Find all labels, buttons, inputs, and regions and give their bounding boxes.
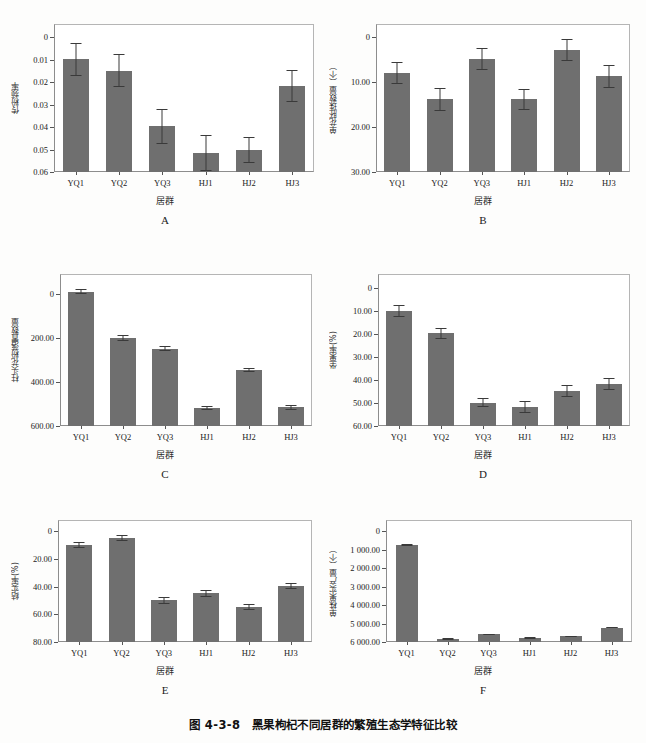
bar bbox=[469, 59, 495, 172]
y-axis-tick-label: 600.00 bbox=[31, 421, 54, 431]
x-axis-tick-mark bbox=[291, 426, 292, 429]
error-bar-stem bbox=[481, 48, 482, 70]
x-axis-tick-mark bbox=[164, 642, 165, 645]
x-axis-tick-mark bbox=[448, 642, 449, 645]
x-axis-tick-mark bbox=[399, 426, 400, 429]
y-axis-tick-mark bbox=[54, 642, 58, 643]
x-axis-tick-mark bbox=[609, 426, 610, 429]
x-axis-tick-mark bbox=[407, 642, 408, 645]
y-axis-tick-label: 0.02 bbox=[33, 77, 48, 87]
x-axis-tick-label: YQ1 bbox=[398, 648, 415, 658]
error-bar-cap-top bbox=[603, 65, 614, 66]
error-bar-cap-bottom bbox=[76, 293, 87, 294]
y-axis-tick-label: 60.00 bbox=[33, 609, 52, 619]
error-bar-cap-top bbox=[243, 604, 254, 605]
error-bar-cap-top bbox=[160, 346, 171, 347]
x-axis-title: 居群 bbox=[6, 194, 324, 207]
y-axis-tick-label: 0 bbox=[50, 289, 54, 299]
error-bar-cap-top bbox=[202, 406, 213, 407]
bar bbox=[109, 538, 135, 642]
bar bbox=[66, 545, 92, 642]
x-axis-tick-mark bbox=[612, 642, 613, 645]
x-axis-tick-mark bbox=[165, 426, 166, 429]
error-bar-cap-bottom bbox=[70, 75, 81, 76]
x-axis-tick-label: HJ1 bbox=[518, 432, 532, 442]
error-bar-cap-bottom bbox=[244, 371, 255, 372]
error-bar-cap-top bbox=[519, 89, 530, 90]
x-axis-tick-label: HJ1 bbox=[523, 648, 537, 658]
error-bar bbox=[475, 48, 489, 70]
plot-frame bbox=[58, 520, 312, 642]
y-axis-tick-mark bbox=[54, 559, 58, 560]
bar bbox=[554, 50, 580, 172]
panel-letter: C bbox=[6, 468, 324, 480]
y-axis-tick-label: 6 000.00 bbox=[350, 637, 380, 647]
plot-frame bbox=[54, 24, 314, 172]
x-axis-tick-mark bbox=[291, 642, 292, 645]
x-axis-tick-label: YQ1 bbox=[389, 178, 406, 188]
chart-panel-d: 60.0050.0040.0030.0020.0010.000坐果率(%)YQ1… bbox=[324, 256, 642, 506]
x-axis-tick-label: HJ3 bbox=[284, 648, 298, 658]
error-bar-cap-bottom bbox=[114, 86, 125, 87]
error-bar-cap-bottom bbox=[603, 87, 614, 88]
error-bar-cap-top bbox=[70, 43, 81, 44]
x-axis-title: 居群 bbox=[324, 448, 642, 461]
error-bar-cap-bottom bbox=[604, 389, 615, 390]
y-axis-tick-mark bbox=[382, 531, 386, 532]
y-axis-tick-mark bbox=[50, 60, 54, 61]
error-bar-cap-top bbox=[118, 335, 129, 336]
error-bar bbox=[112, 54, 126, 88]
y-axis-tick-mark bbox=[54, 587, 58, 588]
error-bar bbox=[434, 328, 448, 340]
x-axis-tick-mark bbox=[567, 172, 568, 175]
x-axis-tick-mark bbox=[441, 426, 442, 429]
x-axis-tick-label: HJ2 bbox=[242, 648, 256, 658]
x-axis-title: 居群 bbox=[6, 448, 324, 461]
error-bar bbox=[392, 305, 406, 317]
x-axis-tick-mark bbox=[122, 642, 123, 645]
error-bar bbox=[517, 89, 531, 111]
error-bar-cap-top bbox=[286, 405, 297, 406]
error-bar-cap-bottom bbox=[286, 409, 297, 410]
y-axis-tick-mark bbox=[50, 82, 54, 83]
error-bar-cap-top bbox=[157, 109, 168, 110]
y-axis-tick-label: 0.04 bbox=[33, 122, 48, 132]
error-bar bbox=[157, 597, 171, 603]
error-bar bbox=[482, 634, 496, 635]
y-axis-tick-label: 10.00 bbox=[351, 77, 370, 87]
bar bbox=[152, 349, 178, 426]
y-axis-tick-mark bbox=[372, 127, 376, 128]
y-axis-tick-label: 5 000.00 bbox=[350, 619, 380, 629]
x-axis-tick-label: YQ2 bbox=[111, 178, 128, 188]
error-bar-stem bbox=[162, 109, 163, 144]
y-axis-tick-mark bbox=[374, 426, 378, 427]
error-bar-cap-bottom bbox=[158, 603, 169, 604]
error-bar-cap-top bbox=[434, 88, 445, 89]
x-axis-tick-label: YQ1 bbox=[391, 432, 408, 442]
error-bar-cap-top bbox=[114, 54, 125, 55]
error-bar bbox=[602, 378, 616, 390]
x-axis-tick-mark bbox=[292, 172, 293, 175]
error-bar-cap-bottom bbox=[442, 639, 453, 640]
x-axis-tick-label: HJ1 bbox=[199, 648, 213, 658]
x-axis-tick-mark bbox=[76, 172, 77, 175]
error-bar-cap-top bbox=[394, 305, 405, 306]
x-axis-title: 居群 bbox=[324, 194, 642, 207]
x-axis-tick-mark bbox=[483, 426, 484, 429]
x-axis-tick-label: YQ3 bbox=[474, 178, 491, 188]
error-bar-cap-top bbox=[392, 62, 403, 63]
y-axis-tick-mark bbox=[50, 172, 54, 173]
y-axis-tick-label: 60.00 bbox=[353, 421, 372, 431]
error-bar-stem bbox=[608, 65, 609, 87]
bar bbox=[278, 407, 304, 426]
x-axis-tick-mark bbox=[81, 426, 82, 429]
y-axis-tick-label: 80.00 bbox=[33, 637, 52, 647]
error-bar-cap-top bbox=[116, 535, 127, 536]
panel-letter: F bbox=[324, 684, 642, 696]
error-bar-cap-bottom bbox=[478, 406, 489, 407]
error-bar-cap-top bbox=[201, 590, 212, 591]
x-axis-tick-mark bbox=[567, 426, 568, 429]
x-axis-tick-mark bbox=[489, 642, 490, 645]
error-bar bbox=[200, 406, 214, 410]
bar bbox=[384, 73, 410, 172]
